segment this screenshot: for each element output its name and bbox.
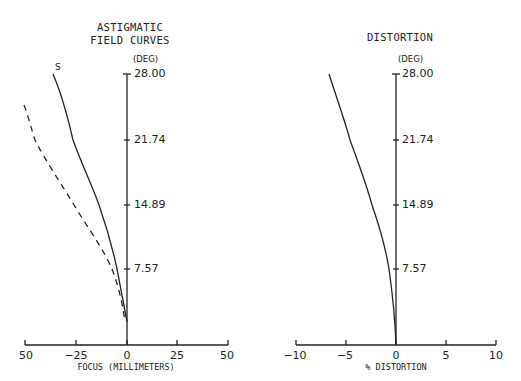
distortion-curve — [329, 74, 396, 345]
t-curve — [24, 105, 125, 322]
s-curve — [53, 74, 127, 322]
chart-graphics — [0, 0, 521, 381]
